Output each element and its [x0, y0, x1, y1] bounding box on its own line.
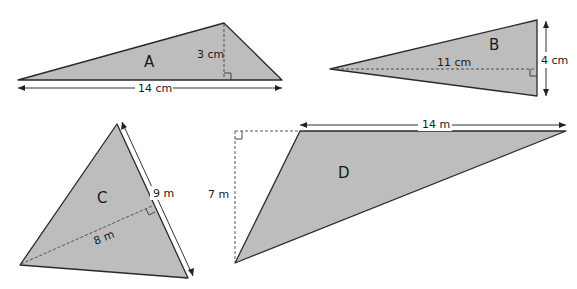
triangle-a-base: 14 cm [138, 82, 172, 95]
triangle-a-height: 3 cm [197, 48, 224, 61]
triangle-b: B 11 cm 4 cm [330, 20, 568, 96]
triangle-a: A 3 cm 14 cm [18, 23, 282, 95]
triangle-d-height: 7 m [208, 188, 229, 201]
triangle-d-base: 14 m [422, 118, 450, 131]
triangle-c-label: C [97, 189, 107, 207]
triangle-d: D 14 m 7 m [208, 117, 566, 263]
triangle-b-base: 4 cm [541, 54, 568, 67]
triangle-b-label: B [489, 36, 499, 54]
triangle-c: C 9 m 8 m [20, 122, 194, 278]
triangle-b-height: 11 cm [437, 56, 471, 69]
triangle-diagram: A 3 cm 14 cm B 11 cm 4 cm C 9 m 8 m [0, 0, 577, 289]
triangle-a-label: A [144, 53, 155, 71]
triangle-d-label: D [338, 164, 350, 182]
triangle-c-base: 9 m [153, 187, 174, 200]
